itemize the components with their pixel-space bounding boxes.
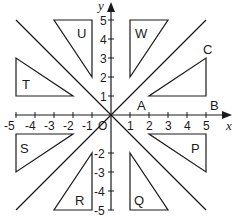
y-tick-label: 2 xyxy=(100,71,107,85)
x-tick-label: -4 xyxy=(25,119,36,133)
x-tick-label: 3 xyxy=(165,119,172,133)
x-tick-label: 5 xyxy=(203,119,210,133)
vertex-label-A: A xyxy=(137,98,146,113)
label-T: T xyxy=(22,77,30,92)
x-tick-label: -5 xyxy=(4,119,15,133)
coordinate-diagram: -5 -4 -3 -2 -1 O 1 2 3 4 5 1 2 3 4 5 -2 … xyxy=(0,0,238,221)
x-axis-label: x xyxy=(225,118,232,133)
y-tick-label: 4 xyxy=(100,33,107,47)
y-tick-label: -3 xyxy=(94,166,105,180)
label-Q: Q xyxy=(134,193,144,208)
y-tick-label: 3 xyxy=(100,52,107,66)
x-tick-label: 1 xyxy=(127,119,134,133)
y-axis-label: y xyxy=(96,0,104,13)
origin-label: O xyxy=(98,119,107,133)
vertex-label-C: C xyxy=(203,42,212,57)
y-axis-arrow-icon xyxy=(107,2,115,12)
y-tick-label: 1 xyxy=(100,90,107,104)
vertex-label-B: B xyxy=(210,98,219,113)
x-tick-label: 4 xyxy=(184,119,191,133)
label-S: S xyxy=(20,141,29,156)
x-tick-label: 2 xyxy=(146,119,153,133)
y-tick-label: -4 xyxy=(94,185,105,199)
x-tick-label: -2 xyxy=(63,119,74,133)
y-tick-label: 5 xyxy=(100,14,107,28)
y-tick-label: -2 xyxy=(94,147,105,161)
label-W: W xyxy=(135,26,148,41)
label-R: R xyxy=(75,193,84,208)
x-tick-label: -1 xyxy=(82,119,93,133)
label-P: P xyxy=(191,141,200,156)
x-tick-label: -3 xyxy=(44,119,55,133)
triangle-ABC xyxy=(149,58,206,96)
y-tick-label: -5 xyxy=(94,204,105,218)
triangle-R xyxy=(54,153,92,210)
diagram-svg: -5 -4 -3 -2 -1 O 1 2 3 4 5 1 2 3 4 5 -2 … xyxy=(0,0,238,221)
label-U: U xyxy=(77,26,86,41)
